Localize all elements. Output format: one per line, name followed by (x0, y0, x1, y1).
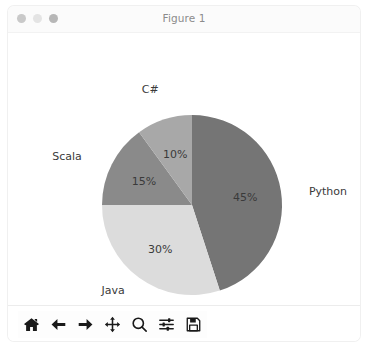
home-icon (23, 316, 40, 333)
pie-percent-scala: 15% (132, 175, 156, 188)
matplotlib-toolbar (8, 305, 360, 341)
window-titlebar: Figure 1 (8, 6, 360, 33)
pie-percent-python: 45% (233, 191, 257, 204)
window-title: Figure 1 (8, 12, 360, 24)
pie-label-csharp: C# (142, 83, 159, 96)
figure-canvas[interactable]: 45%30%15%10% PythonJavaScalaC# (8, 33, 360, 305)
pie-percent-java: 30% (148, 243, 172, 256)
floppy-disk-icon (185, 316, 202, 333)
save-button[interactable] (180, 311, 207, 338)
zoom-button[interactable] (126, 311, 153, 338)
forward-button[interactable] (72, 311, 99, 338)
home-button[interactable] (18, 311, 45, 338)
configure-subplots-button[interactable] (153, 311, 180, 338)
pie-slices (102, 115, 282, 295)
pie-percent-csharp: 10% (163, 148, 187, 161)
pan-button[interactable] (99, 311, 126, 338)
pie-chart: 45%30%15%10% PythonJavaScalaC# (8, 33, 360, 305)
pie-label-scala: Scala (52, 150, 82, 163)
pie-label-java: Java (100, 284, 124, 297)
back-button[interactable] (45, 311, 72, 338)
magnifier-icon (131, 316, 148, 333)
pie-label-python: Python (309, 185, 347, 198)
move-icon (104, 316, 121, 333)
arrow-left-icon (50, 316, 67, 333)
figure-window: Figure 1 45%30%15%10% PythonJavaScalaC# (8, 6, 360, 341)
arrow-right-icon (77, 316, 94, 333)
sliders-icon (158, 316, 175, 333)
